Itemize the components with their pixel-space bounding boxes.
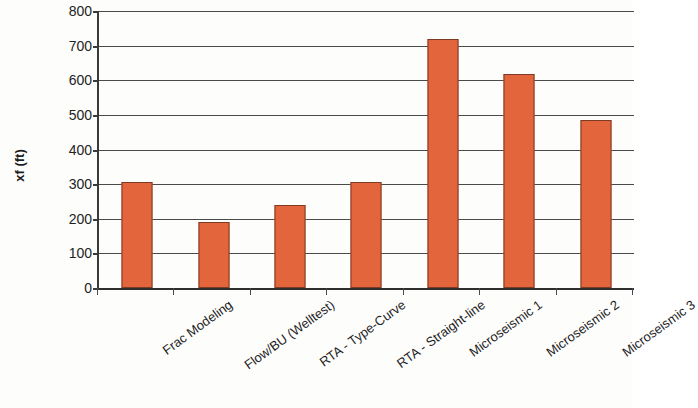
y-axis-tick-labels: 8007006005004003002001000 (46, 0, 92, 408)
x-axis-tick-mark (250, 288, 251, 295)
x-axis-ticks (97, 288, 632, 297)
y-axis-tick-label: 300 (46, 177, 92, 191)
bar-slot (481, 11, 557, 288)
bar (122, 182, 153, 288)
y-axis-tick-label: 500 (46, 108, 92, 122)
x-axis-tick-mark (173, 288, 174, 295)
x-axis-category-label: Frac Modeling (160, 297, 235, 358)
bar-slot (405, 11, 481, 288)
bar-slot (252, 11, 328, 288)
x-axis-tick-mark (556, 288, 557, 295)
bar-slot (175, 11, 251, 288)
x-axis-tick-mark (479, 288, 480, 295)
y-axis-title: xf (ft) (2, 130, 36, 200)
x-axis-tick-mark (403, 288, 404, 295)
bar (275, 205, 306, 288)
bar-slot (99, 11, 175, 288)
x-axis-tick-mark (632, 288, 633, 295)
bar (198, 222, 229, 288)
bar (580, 120, 611, 288)
x-axis-category-labels: Frac ModelingFlow/BU (Welltest)RTA - Typ… (97, 297, 632, 408)
y-axis-tick-label: 800 (46, 4, 92, 18)
bar-slot (328, 11, 404, 288)
x-axis-category-label: Microseismic 2 (543, 297, 621, 360)
plot-area (97, 11, 634, 288)
y-axis-title-text: xf (ft) (12, 149, 27, 182)
y-axis-tick-label: 0 (46, 281, 92, 295)
x-axis-tick-mark (97, 288, 98, 295)
bar-series (99, 11, 634, 288)
bar (504, 74, 535, 288)
bar-slot (558, 11, 634, 288)
y-axis-tick-label: 400 (46, 143, 92, 157)
x-axis-category-label: Microseismic 3 (619, 297, 697, 360)
y-axis-tick-label: 200 (46, 212, 92, 226)
bar (427, 39, 458, 288)
y-axis-tick-label: 600 (46, 73, 92, 87)
x-axis-tick-mark (326, 288, 327, 295)
y-axis-tick-label: 700 (46, 39, 92, 53)
bar (351, 182, 382, 288)
y-axis-tick-label: 100 (46, 246, 92, 260)
